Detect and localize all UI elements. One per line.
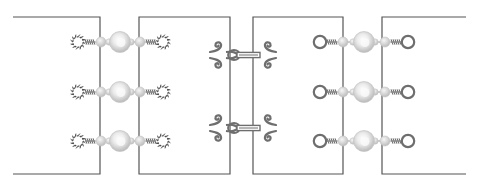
- beaded-connector-sun-loop-row-1: [71, 32, 171, 53]
- panels-layer: [13, 17, 466, 174]
- beaded-connector-sun-loop-row-2: [71, 82, 171, 103]
- beaded-connector-ring-loop-row-2: [314, 82, 414, 103]
- joins-layer: [71, 32, 415, 152]
- beaded-connector-sun-loop-row-3: [71, 131, 171, 152]
- beaded-connector-group-1: [71, 32, 171, 152]
- hook-and-eye-row-1: [210, 42, 276, 67]
- diagram-canvas: [0, 0, 485, 187]
- hook-and-eye-group-2: [210, 42, 276, 140]
- beaded-connector-ring-loop-row-1: [314, 32, 414, 53]
- hook-and-eye-row-2: [210, 115, 276, 140]
- beaded-connector-group-3: [314, 32, 414, 152]
- panel-4: [382, 17, 466, 174]
- beaded-connector-ring-loop-row-3: [314, 131, 414, 152]
- connector-diagram: [0, 0, 485, 187]
